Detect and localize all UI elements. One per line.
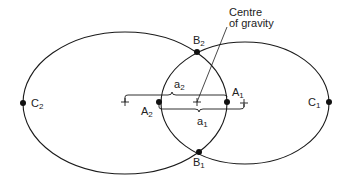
diagram-canvas: [0, 0, 345, 181]
point-b2: [194, 49, 200, 55]
label-b1: B1: [193, 157, 205, 170]
brace-a1: [159, 102, 244, 112]
label-c1: C1: [308, 97, 320, 110]
brace-a2: [125, 92, 227, 102]
label-a2: A2: [141, 106, 153, 119]
point-a1: [224, 99, 230, 105]
label-a1: A1: [232, 87, 244, 100]
binary-orbit-diagram: Centre of gravity C2 C1 B2 B1 A2 A1 a2 a…: [0, 0, 345, 181]
centre-of-gravity-label-line2: of gravity: [229, 18, 274, 29]
label-distance-a2: a2: [174, 79, 185, 92]
point-b1: [196, 149, 202, 155]
point-c1: [326, 99, 332, 105]
point-a2: [156, 99, 162, 105]
cross-mark-centre-of-gravity: [193, 98, 201, 106]
label-distance-a1: a1: [197, 116, 208, 129]
label-c2: C2: [31, 98, 43, 111]
cross-mark-centre-2: [121, 98, 129, 106]
label-b2: B2: [193, 35, 205, 48]
point-c2: [20, 100, 26, 106]
cross-mark-centre-1: [240, 99, 248, 107]
